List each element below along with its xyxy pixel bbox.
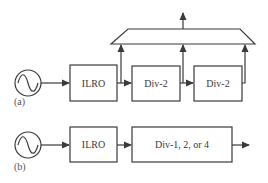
panel-b: ILRO Div-1, 2, or 4 (b) xyxy=(14,127,249,173)
panel-b-tag: (b) xyxy=(14,161,26,173)
sine-source-icon xyxy=(15,132,41,158)
panel-a: ILRO Div-2 Div-2 (a) xyxy=(14,13,255,108)
ilro-label: ILRO xyxy=(82,78,105,89)
div2-2-label: Div-2 xyxy=(206,78,229,89)
div2-1-label: Div-2 xyxy=(144,78,167,89)
combiner-trapezoid xyxy=(111,29,255,44)
sine-source-icon xyxy=(15,70,41,96)
block-diagram: ILRO Div-2 Div-2 (a) ILRO Div-1, 2, or 4… xyxy=(0,0,268,183)
panel-a-tag: (a) xyxy=(14,96,25,108)
div-select-label: Div-1, 2, or 4 xyxy=(155,139,209,150)
ilro-label: ILRO xyxy=(82,139,105,150)
